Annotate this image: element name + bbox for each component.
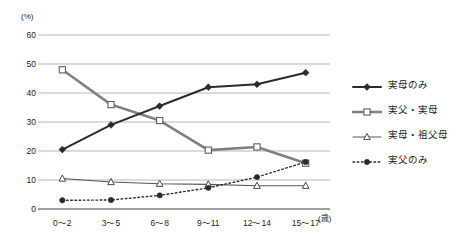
x-tick-label: 9〜11 <box>197 219 220 228</box>
legend-item-2[interactable]: 実父・実母 <box>352 97 456 122</box>
chart-container: (%) 0102030405060 0〜23〜56〜89〜1112〜1415〜1… <box>0 0 456 240</box>
x-tick-label: 12〜14 <box>243 219 271 228</box>
chart-legend: 実母のみ実父・実母実母・祖父母実父のみ <box>352 72 456 172</box>
legend-item-4[interactable]: 実父のみ <box>352 147 456 172</box>
legend-item-3[interactable]: 実母・祖父母 <box>352 122 456 147</box>
legend-label: 実母のみ <box>388 79 428 90</box>
legend-marker-open-triangle-icon <box>352 129 382 141</box>
legend-marker-filled-circle-icon <box>352 154 382 166</box>
x-tick-label: 3〜5 <box>102 219 120 228</box>
x-tick-label: 0〜2 <box>53 219 71 228</box>
x-tick-label: 15〜17 <box>292 219 320 228</box>
x-axis-unit-label: (歳) <box>318 212 331 223</box>
legend-label: 実母・祖父母 <box>388 129 448 140</box>
legend-label: 実父のみ <box>388 154 428 165</box>
data-point-filled-circle <box>364 159 369 164</box>
legend-label: 実父・実母 <box>388 104 438 115</box>
legend-item-1[interactable]: 実母のみ <box>352 72 456 97</box>
data-point-filled-diamond <box>364 83 371 90</box>
legend-marker-open-square-icon <box>352 104 382 116</box>
x-tick-label: 6〜8 <box>150 219 168 228</box>
data-point-open-square <box>364 108 370 114</box>
legend-marker-filled-diamond-icon <box>352 79 382 91</box>
